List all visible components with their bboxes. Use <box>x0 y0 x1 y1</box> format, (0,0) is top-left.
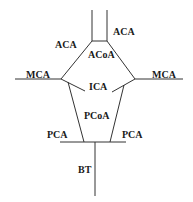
label-acoa: ACoA <box>88 49 115 60</box>
aca-right-segment <box>107 41 135 79</box>
circle-of-willis-diagram: ACA ACA ACoA MCA MCA ICA PCoA PCA PCA BT <box>0 0 193 202</box>
label-mca-right: MCA <box>152 69 177 80</box>
label-bt: BT <box>78 164 92 175</box>
label-aca-right: ACA <box>113 26 135 37</box>
label-pcoa: PCoA <box>84 110 110 121</box>
label-pca-right: PCA <box>122 129 143 140</box>
label-mca-left: MCA <box>26 69 51 80</box>
ica-left-vessel <box>61 79 85 91</box>
pcoa-left-vessel <box>68 82 84 142</box>
diagram-svg: ACA ACA ACoA MCA MCA ICA PCoA PCA PCA BT <box>0 0 193 202</box>
label-pca-left: PCA <box>47 129 68 140</box>
label-ica: ICA <box>89 81 108 92</box>
label-aca-left: ACA <box>55 39 77 50</box>
